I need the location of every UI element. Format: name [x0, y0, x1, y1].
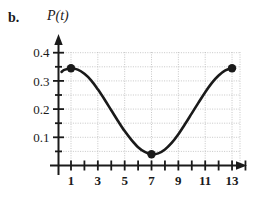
- x-tick-label: 5: [121, 173, 128, 188]
- plot-area: 0.40.30.20.1 135791113: [0, 0, 255, 197]
- x-axis-tick-labels: 135791113: [68, 173, 239, 188]
- y-axis-tick-labels: 0.40.30.20.1: [33, 45, 50, 145]
- x-tick-label: 9: [175, 173, 182, 188]
- minimum-point: [147, 150, 155, 158]
- end-point: [228, 64, 236, 72]
- part-label: b.: [8, 10, 19, 26]
- x-tick-label: 7: [148, 173, 155, 188]
- y-tick-label: 0.2: [33, 102, 49, 117]
- x-tick-label: 13: [226, 173, 240, 188]
- curve-path: [62, 68, 232, 154]
- figure-container: b. P(t) 0.40.30.20.1 135791113: [0, 0, 255, 197]
- x-tick-label: 1: [68, 173, 75, 188]
- data-point-markers: [67, 64, 236, 158]
- x-tick-label: 3: [95, 173, 102, 188]
- start-point: [67, 64, 75, 72]
- y-tick-label: 0.3: [33, 74, 49, 89]
- y-tick-label: 0.1: [33, 130, 49, 145]
- gridlines: [59, 52, 241, 166]
- x-tick-label: 11: [199, 173, 211, 188]
- y-tick-label: 0.4: [33, 45, 50, 60]
- function-label: P(t): [47, 8, 69, 24]
